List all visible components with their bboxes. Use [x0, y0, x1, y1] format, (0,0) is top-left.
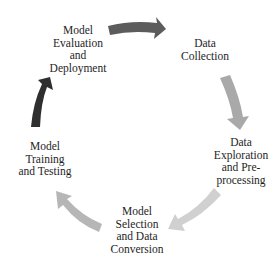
stage-line: and	[50, 49, 107, 62]
stage-line: and Testing	[19, 165, 72, 178]
arrow-selection-to-training	[56, 191, 102, 232]
stage-line: Model	[110, 205, 163, 218]
arrow-evaluation-to-collection	[108, 17, 166, 39]
stage-line: processing	[214, 174, 268, 187]
stage-line: Selection	[110, 218, 163, 231]
stage-line: Data	[214, 136, 268, 149]
stage-line: Collection	[181, 50, 229, 63]
stage-line: Model	[50, 24, 107, 37]
stage-line: Evaluation	[50, 37, 107, 50]
arrow-collection-to-exploration	[220, 75, 249, 130]
stage-data-exploration-preprocessing: Data Exploration and Pre- processing	[214, 136, 268, 186]
stage-line: Model	[19, 140, 72, 153]
stage-line: and Data	[110, 230, 163, 243]
stage-model-training-testing: Model Training and Testing	[19, 140, 72, 178]
stage-line: Data	[181, 37, 229, 50]
stage-line: Conversion	[110, 243, 163, 256]
arrow-exploration-to-selection	[168, 188, 221, 231]
stage-line: Deployment	[50, 62, 107, 75]
stage-data-collection: Data Collection	[181, 37, 229, 62]
stage-model-selection-conversion: Model Selection and Data Conversion	[110, 205, 163, 255]
stage-line: Training	[19, 153, 72, 166]
ml-lifecycle-diagram: Model Evaluation and Deployment Data Col…	[0, 0, 273, 268]
stage-line: Exploration	[214, 149, 268, 162]
stage-line: and Pre-	[214, 161, 268, 174]
arrow-training-to-evaluation	[31, 77, 53, 127]
stage-model-evaluation-deployment: Model Evaluation and Deployment	[50, 24, 107, 74]
